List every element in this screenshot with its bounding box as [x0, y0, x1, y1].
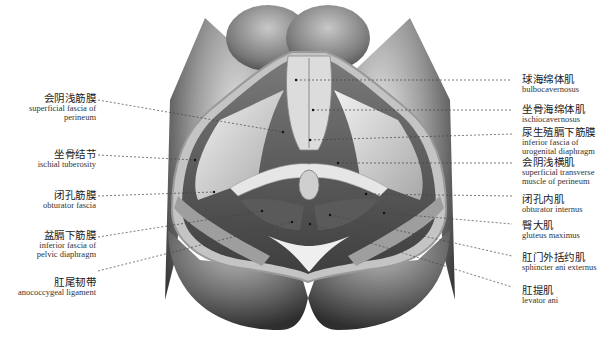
label-en: ischiocavernosus	[522, 115, 615, 124]
label-en: sphincter ani externus	[522, 263, 615, 272]
label-en: superficial fascia of perineum	[0, 104, 96, 122]
label-ischial-tuberosity: 坐骨结节 ischial tuberosity	[0, 149, 96, 169]
label-bulbocavernosus: 球海绵体肌 bulbocavernosus	[522, 74, 615, 94]
label-en: bulbocavernosus	[522, 85, 615, 94]
label-en: ischial tuberosity	[0, 160, 96, 169]
label-superficial-fascia: 会阴浅筋膜 superficial fascia of perineum	[0, 93, 96, 122]
label-en: levator ani	[522, 296, 615, 305]
label-obturator-fascia: 闭孔筋膜 obturator fascia	[0, 190, 96, 210]
label-ischiocavernosus: 坐骨海绵体肌 ischiocavernosus	[522, 104, 615, 124]
label-en: gluteus maximus	[522, 231, 615, 240]
label-sphincter-ani-externus: 肛门外括约肌 sphincter ani externus	[522, 252, 615, 272]
label-en: superficial transverse muscle of perineu…	[522, 168, 615, 186]
label-inferior-fascia-pelvic: 盆膈下筋膜 inferior fascia of pelvic diaphrag…	[0, 230, 96, 259]
label-anococcygeal-ligament: 肛尾韧带 anococcygeal ligament	[0, 277, 96, 297]
label-en: inferior fascia of pelvic diaphragm	[0, 241, 96, 259]
label-en: anococcygeal ligament	[0, 288, 96, 297]
label-gluteus-maximus: 臀大肌 gluteus maximus	[522, 220, 615, 240]
label-en: inferior fascia of urogenital diaphragm	[522, 138, 615, 156]
label-en: obturator fascia	[0, 201, 96, 210]
label-levator-ani: 肛提肌 levator ani	[522, 285, 615, 305]
anus	[299, 170, 319, 200]
label-inferior-fascia-urogenital: 尿生殖膈下筋膜 inferior fascia of urogenital di…	[522, 127, 615, 156]
label-superficial-transverse: 会阴浅横肌 superficial transverse muscle of p…	[522, 157, 615, 186]
label-en: obturator internus	[522, 205, 615, 214]
label-obturator-internus: 闭孔内肌 obturator internus	[522, 194, 615, 214]
